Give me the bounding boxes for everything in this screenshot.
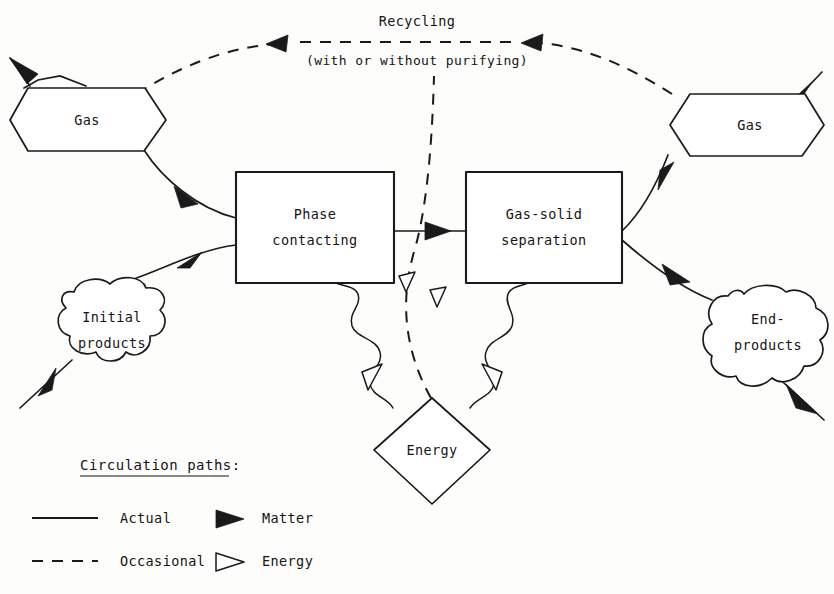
recycling-arrowhead-right [521, 34, 543, 51]
energy-to-phase-contacting-wavy-path [336, 283, 393, 408]
legend: Circulation paths: Actual Occasional Mat… [32, 457, 313, 571]
legend-entry-occasional: Occasional [32, 553, 205, 569]
end-products-label-line1: End- [751, 311, 785, 327]
legend-entry-actual: Actual [32, 510, 171, 526]
legend-title: Circulation paths: [80, 457, 241, 473]
recycling-annotation-line2: (with or without purifying) [306, 53, 528, 68]
end-products-label-line2: products [734, 337, 802, 353]
recycling-arrowhead-left [266, 35, 288, 52]
gas-solid-separation-label-line2: separation [501, 232, 586, 248]
end-products-cloud-shape [703, 285, 828, 386]
energy-to-separation-arrowhead [482, 364, 502, 390]
phase-contacting-label-line2: contacting [272, 232, 357, 248]
energy-hollow-arrowhead-upper [399, 272, 415, 292]
energy-wavy-path-group [336, 283, 528, 408]
gas-inlet-arrowhead-left [10, 58, 38, 84]
gas-left-label: Gas [74, 112, 100, 128]
node-gas-right[interactable]: Gas [670, 94, 824, 156]
node-gas-left[interactable]: Gas [10, 88, 166, 151]
node-initial-products[interactable]: Initial products [58, 278, 165, 361]
gas-right-label: Gas [737, 117, 763, 133]
legend-sample-hollow-arrowhead [216, 553, 244, 571]
energy-label: Energy [406, 442, 457, 458]
energy-to-separation-wavy-path [470, 283, 528, 408]
gas-solid-separation-box-shape [466, 172, 622, 283]
end-products-outlet-arrowhead [786, 384, 818, 414]
legend-sample-filled-arrowhead [216, 510, 244, 528]
phase-contacting-to-separation-arrowhead [425, 222, 451, 240]
recycling-path-right [540, 43, 672, 94]
recycling-path-left [146, 44, 278, 88]
gas-left-to-phase-contacting-arrowhead [174, 186, 198, 208]
node-phase-contacting[interactable]: Phase contacting [236, 172, 394, 283]
legend-label-occasional: Occasional [120, 553, 205, 569]
recycling-annotation: Recycling (with or without purifying) [306, 13, 528, 68]
initial-products-to-phase-contacting-path [122, 245, 236, 283]
legend-label-actual: Actual [120, 510, 171, 526]
gas-solid-separation-label-line1: Gas-solid [506, 206, 583, 222]
node-end-products[interactable]: End- products [703, 285, 828, 386]
initial-products-label-line2: products [78, 335, 146, 351]
legend-label-matter: Matter [262, 510, 313, 526]
energy-to-phase-contacting-arrowhead [362, 364, 382, 390]
diagram-canvas: Gas Gas Phase contacting Gas-solid separ… [0, 0, 834, 594]
initial-products-label-line1: Initial [82, 309, 142, 325]
recycling-annotation-line1: Recycling [379, 13, 456, 29]
legend-entry-matter: Matter [216, 510, 313, 528]
initial-feed-inlet-arrowhead [38, 368, 56, 396]
process-flow-diagram: Gas Gas Phase contacting Gas-solid separ… [0, 0, 834, 594]
separation-to-gas-right-arrowhead [658, 162, 674, 190]
separation-to-end-products-arrowhead [662, 264, 690, 285]
node-gas-solid-separation[interactable]: Gas-solid separation [466, 172, 622, 283]
energy-dashed-path-group [399, 76, 446, 398]
phase-contacting-box-shape [236, 172, 394, 283]
separation-to-gas-right-path [622, 155, 668, 231]
legend-entry-energy: Energy [216, 553, 313, 571]
phase-contacting-label-line1: Phase [294, 206, 337, 222]
energy-hollow-arrowhead-lower [430, 287, 446, 307]
gas-left-to-phase-contacting-path [144, 150, 236, 218]
node-energy[interactable]: Energy [374, 398, 490, 504]
legend-label-energy: Energy [262, 553, 313, 569]
